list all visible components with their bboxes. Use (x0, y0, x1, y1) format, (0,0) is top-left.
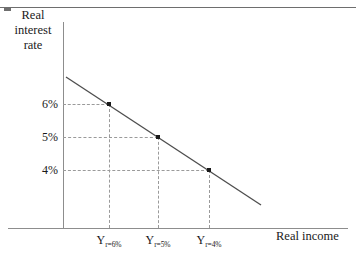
data-point-marker-5 (156, 135, 160, 139)
figure-container: Real interest rate Real income 6% 5% 4% … (0, 0, 356, 259)
demand-curve (0, 0, 356, 259)
data-point-marker-4 (207, 168, 211, 172)
data-point-marker-6 (107, 102, 111, 106)
